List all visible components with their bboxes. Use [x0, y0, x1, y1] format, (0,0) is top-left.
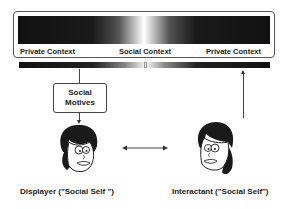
label-private-context-left: Private Context [20, 47, 75, 56]
motives-line2: Motives [65, 98, 95, 108]
motives-line1: Social [65, 88, 95, 98]
social-motives-box: Social Motives [53, 83, 107, 113]
arrow-up-icon [241, 70, 245, 74]
context-gradient [18, 16, 270, 44]
connector-line-interactant-to-bar [243, 74, 244, 118]
label-social-context: Social Context [119, 47, 171, 56]
gradient-bar-right [147, 62, 270, 68]
double-arrow-icon [122, 145, 168, 151]
interactant-caption: Interactant ("Social Self") [172, 187, 269, 196]
context-scale-frame: Private Context Social Context Private C… [13, 11, 275, 58]
gradient-bar-left [19, 62, 144, 68]
connector-line-bar-to-motives [79, 69, 80, 83]
displayer-caption: Displayer ("Social Self ") [20, 187, 114, 196]
interactant-face-icon [188, 120, 240, 178]
displayer-face-icon [55, 122, 105, 177]
label-private-context-right: Private Context [206, 47, 261, 56]
